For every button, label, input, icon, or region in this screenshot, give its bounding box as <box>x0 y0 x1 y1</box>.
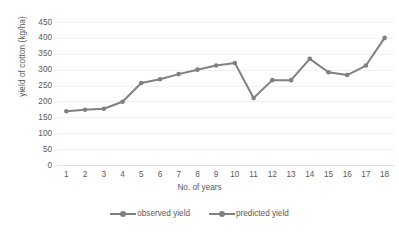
y-tick-label-450: 450 <box>26 18 52 27</box>
y-tick-label-150: 150 <box>26 113 52 122</box>
x-tick-label-7: 7 <box>169 170 189 180</box>
x-tick-label-3: 3 <box>94 170 114 180</box>
legend-label: observed yield <box>136 209 190 218</box>
x-tick-label-1: 1 <box>56 170 76 180</box>
x-tick-label-16: 16 <box>337 170 357 180</box>
y-tick-label-300: 300 <box>26 65 52 74</box>
x-tick-label-12: 12 <box>262 170 282 180</box>
x-tick-label-11: 11 <box>244 170 264 180</box>
data-point <box>270 78 275 83</box>
x-tick-label-17: 17 <box>356 170 376 180</box>
x-axis-title: No. of years <box>0 183 399 192</box>
x-tick-label-10: 10 <box>225 170 245 180</box>
x-tick-label-8: 8 <box>187 170 207 180</box>
x-tick-label-14: 14 <box>300 170 320 180</box>
y-tick-label-350: 350 <box>26 49 52 58</box>
line-chart: yield of cotton (kg/ha) 0501001502002503… <box>0 0 399 233</box>
x-tick-label-9: 9 <box>206 170 226 180</box>
x-tick-label-6: 6 <box>150 170 170 180</box>
data-point <box>158 77 163 82</box>
legend-marker-icon <box>209 209 235 218</box>
legend-label: predicted yield <box>235 209 289 218</box>
data-point <box>382 36 387 41</box>
x-tick-label-18: 18 <box>375 170 395 180</box>
y-axis-tick-labels: 050100150200250300350400450 <box>26 16 52 166</box>
series-line-observed-yield <box>66 38 384 111</box>
legend-item-predicted-yield[interactable]: predicted yield <box>209 209 289 218</box>
data-point <box>251 96 256 101</box>
x-tick-label-5: 5 <box>131 170 151 180</box>
x-axis-tick-labels: 123456789101112131415161718 <box>57 170 394 182</box>
data-point <box>214 63 219 68</box>
gridline-0 <box>57 165 394 166</box>
data-series-layer <box>57 22 394 165</box>
y-tick-label-0: 0 <box>26 161 52 170</box>
legend-item-observed-yield[interactable]: observed yield <box>110 209 190 218</box>
data-point <box>289 78 294 83</box>
y-tick-label-400: 400 <box>26 33 52 42</box>
data-point <box>64 109 69 114</box>
data-point <box>139 81 144 86</box>
data-point <box>176 72 181 77</box>
x-tick-label-2: 2 <box>75 170 95 180</box>
data-point <box>326 70 331 75</box>
plot-area <box>57 22 394 165</box>
data-point <box>364 63 369 68</box>
y-tick-label-200: 200 <box>26 97 52 106</box>
data-point <box>83 107 88 112</box>
data-point <box>307 57 312 62</box>
data-point <box>120 99 125 104</box>
x-tick-label-4: 4 <box>113 170 133 180</box>
data-point <box>233 61 238 66</box>
data-point <box>195 67 200 72</box>
y-tick-label-250: 250 <box>26 81 52 90</box>
chart-legend: observed yieldpredicted yield <box>0 209 399 218</box>
y-tick-label-50: 50 <box>26 145 52 154</box>
x-tick-label-13: 13 <box>281 170 301 180</box>
legend-marker-icon <box>110 209 136 218</box>
data-point <box>102 106 107 111</box>
data-point <box>345 73 350 78</box>
y-tick-label-100: 100 <box>26 129 52 138</box>
x-tick-label-15: 15 <box>318 170 338 180</box>
